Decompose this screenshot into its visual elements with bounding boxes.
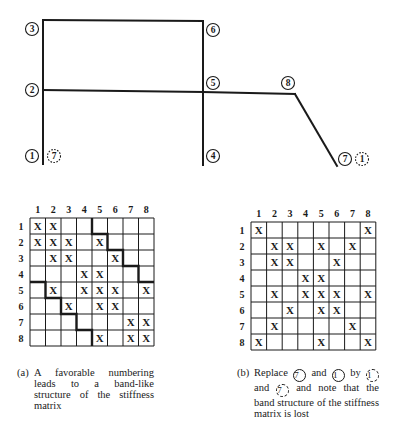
- row-header: 1: [19, 221, 24, 232]
- node-label-1-icon: 1: [26, 150, 39, 163]
- matrix-entry: X: [317, 240, 325, 252]
- col-header: 3: [288, 208, 293, 219]
- matrix-entry: X: [302, 272, 310, 284]
- matrix-entry: X: [111, 300, 119, 312]
- matrix-entry: X: [333, 288, 341, 300]
- caption-b-part1: Replace: [254, 367, 288, 378]
- caption-b-text: Replace 7 and 1 by 1 and 7 and note that…: [254, 367, 379, 419]
- matrix-entry: X: [49, 284, 57, 296]
- matrix-entry: X: [364, 336, 372, 348]
- row-header: 7: [19, 317, 24, 328]
- col-header: 5: [97, 204, 102, 215]
- node-label-6-icon: 6: [207, 24, 220, 37]
- matrix-entry: X: [317, 272, 325, 284]
- matrix-entry: X: [270, 256, 278, 268]
- col-header: 8: [366, 208, 371, 219]
- stiffness-matrix-a: 1234567812345678XXXXXXXXXXXXXXXXXXXXXXXX: [0, 195, 170, 355]
- svg-text:3: 3: [30, 24, 35, 34]
- col-header: 7: [128, 204, 133, 215]
- row-header: 3: [240, 257, 245, 268]
- matrix-entry: X: [302, 288, 310, 300]
- frame-member-8-7: [295, 94, 337, 166]
- matrix-entry: X: [80, 284, 88, 296]
- caption-b-part2: and: [311, 367, 326, 378]
- row-header: 2: [240, 241, 245, 252]
- matrix-entry: X: [127, 332, 135, 344]
- caption-b-part3: by: [350, 367, 361, 378]
- matrix-entry: X: [65, 236, 73, 248]
- svg-text:2: 2: [30, 85, 35, 95]
- col-header: 6: [334, 208, 339, 219]
- col-header: 4: [303, 208, 308, 219]
- node-label-7-icon: 7: [339, 153, 352, 166]
- row-header: 6: [240, 305, 245, 316]
- matrix-entry: X: [142, 332, 150, 344]
- row-header: 8: [19, 333, 24, 344]
- node-label-4-icon: 4: [207, 150, 220, 163]
- matrix-entry: X: [65, 252, 73, 264]
- matrix-entry: X: [96, 300, 104, 312]
- structural-frame-diagram: 3625814771: [0, 0, 397, 200]
- matrix-entry: X: [142, 284, 150, 296]
- matrix-entry: X: [255, 224, 263, 236]
- col-header: 7: [350, 208, 355, 219]
- stiffness-matrix-b: 1234567812345678XXXXXXXXXXXXXXXXXXXXXXXX: [220, 199, 397, 359]
- caption-b-part5: and note that the band structure of the …: [254, 382, 379, 419]
- matrix-entry: X: [270, 240, 278, 252]
- node-label-2-icon: 2: [26, 84, 39, 97]
- matrix-entry: X: [80, 268, 88, 280]
- matrix-entry: X: [255, 336, 263, 348]
- col-header: 3: [66, 204, 71, 215]
- node-label-5-icon: 5: [207, 77, 220, 90]
- col-header: 5: [319, 208, 324, 219]
- matrix-entry: X: [286, 240, 294, 252]
- caption-a-text: A favorable numbering leads to a band-li…: [34, 367, 154, 411]
- col-header: 6: [113, 204, 118, 215]
- col-header: 4: [82, 204, 87, 215]
- node-circle-1-icon: 1: [332, 369, 345, 382]
- matrix-entry: X: [364, 224, 372, 236]
- row-header: 7: [240, 321, 245, 332]
- frame-member-5-8: [203, 92, 295, 94]
- col-header: 2: [51, 204, 56, 215]
- caption-a: (a) A favorable numbering leads to a ban…: [17, 367, 154, 407]
- col-header: 8: [144, 204, 149, 215]
- row-header: 2: [19, 237, 24, 248]
- matrix-entry: X: [111, 284, 119, 296]
- matrix-entry: X: [49, 236, 57, 248]
- svg-text:8: 8: [286, 78, 291, 88]
- matrix-entry: X: [270, 288, 278, 300]
- matrix-entry: X: [34, 236, 42, 248]
- matrix-entry: X: [286, 256, 294, 268]
- col-header: 1: [35, 204, 40, 215]
- caption-a-tag: (a): [17, 367, 29, 378]
- col-header: 2: [272, 208, 277, 219]
- matrix-entry: X: [127, 316, 135, 328]
- caption-b-tag: (b): [237, 367, 249, 378]
- matrix-entry: X: [270, 320, 278, 332]
- matrix-entry: X: [49, 252, 57, 264]
- row-header: 1: [240, 225, 245, 236]
- matrix-entry: X: [111, 252, 119, 264]
- frame-member-3-6: [43, 20, 203, 21]
- node-circle-7-icon: 7: [293, 369, 306, 382]
- svg-text:4: 4: [211, 151, 216, 161]
- matrix-entry: X: [65, 300, 73, 312]
- matrix-entry: X: [49, 220, 57, 232]
- matrix-entry: X: [333, 304, 341, 316]
- svg-text:1: 1: [360, 154, 365, 164]
- row-header: 5: [240, 289, 245, 300]
- svg-text:7: 7: [343, 154, 348, 164]
- row-header: 5: [19, 285, 24, 296]
- matrix-entry: X: [348, 240, 356, 252]
- dashed-circle-7-icon: 7: [276, 384, 289, 397]
- col-header: 1: [256, 208, 261, 219]
- matrix-entry: X: [34, 220, 42, 232]
- svg-text:7: 7: [52, 151, 57, 161]
- alt-node-label-7-icon: 7: [48, 150, 61, 163]
- alt-node-label-1-icon: 1: [356, 153, 369, 166]
- matrix-entry: X: [317, 304, 325, 316]
- node-label-8-icon: 8: [282, 77, 295, 90]
- svg-text:6: 6: [211, 25, 216, 35]
- matrix-entry: X: [96, 268, 104, 280]
